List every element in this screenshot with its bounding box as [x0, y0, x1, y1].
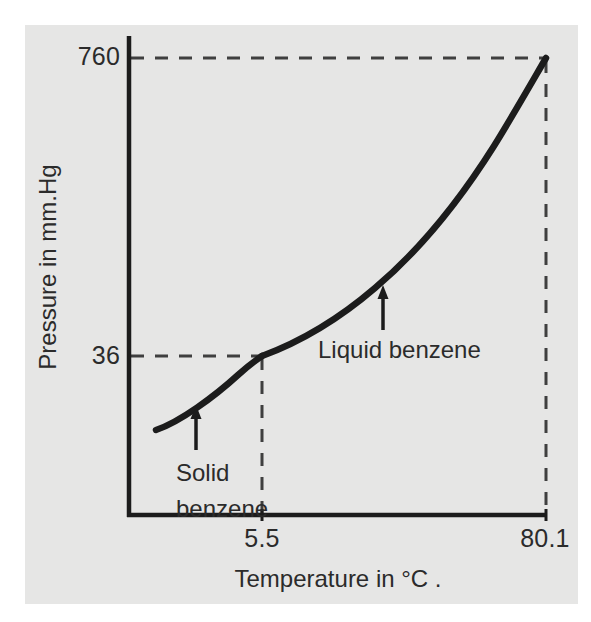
liquid-benzene-label: Liquid benzene [318, 336, 481, 364]
x-axis-tick-label-801: 80.1 [500, 524, 590, 553]
benzene-phase-diagram-figure: 760 36 5.5 80.1 Temperature in °C . Pres… [0, 0, 591, 622]
solid-benzene-curve [156, 356, 262, 430]
x-axis-tick-label-55: 5.5 [222, 524, 302, 553]
solid-benzene-label-line1: Solid [176, 455, 268, 491]
x-axis-title: Temperature in °C . [128, 565, 548, 593]
liquid-benzene-curve [262, 58, 546, 356]
solid-benzene-label-line2: benzene [176, 491, 268, 527]
y-axis-tick-label-760: 760 [58, 42, 120, 71]
solid-benzene-label: Solid benzene [176, 455, 268, 527]
liquid-benzene-arrow-icon [378, 285, 389, 330]
y-axis-tick-label-36: 36 [72, 341, 120, 370]
y-axis-title: Pressure in mm.Hg [34, 157, 62, 377]
